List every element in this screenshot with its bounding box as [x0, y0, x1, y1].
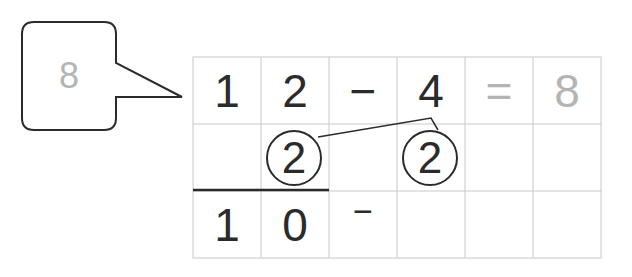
cell-answer: 8 — [533, 57, 601, 124]
cell-minus-small: − — [329, 178, 397, 245]
cell-digit-2: 2 — [261, 57, 329, 124]
callout-answer: 8 — [22, 22, 116, 130]
circled-decomposition-right: 2 — [402, 130, 458, 186]
cell-ones-0: 0 — [261, 191, 329, 258]
cell-digit-4: 4 — [397, 57, 465, 124]
cell-empty — [397, 191, 465, 258]
cell-minus: − — [329, 57, 397, 124]
circled-decomposition-left: 2 — [266, 130, 322, 186]
cell-empty — [465, 191, 533, 258]
cell-empty — [533, 191, 601, 258]
cell-digit-1: 1 — [193, 57, 261, 124]
cell-tens-1: 1 — [193, 191, 261, 258]
cell-equals: = — [465, 57, 533, 124]
